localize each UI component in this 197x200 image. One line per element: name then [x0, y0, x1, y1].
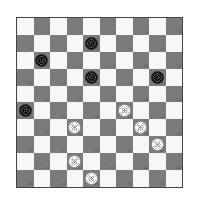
- board-square-dark[interactable]: 24: [133, 86, 150, 103]
- board-square-light: [133, 136, 150, 153]
- board-square-dark[interactable]: 31: [34, 119, 51, 136]
- board-square-dark[interactable]: 2: [67, 18, 84, 35]
- white-piece[interactable]: [85, 172, 98, 185]
- board-square-dark[interactable]: 3: [100, 18, 117, 35]
- board-square-dark[interactable]: 33: [100, 119, 117, 136]
- board-square-light: [166, 69, 183, 86]
- board-square-dark[interactable]: 43: [100, 153, 117, 170]
- board-square-dark[interactable]: 4: [133, 18, 150, 35]
- board-square-light: [67, 102, 84, 119]
- board-square-light: [149, 52, 166, 69]
- board-square-light: [34, 170, 51, 187]
- board-square-dark[interactable]: 28: [83, 102, 100, 119]
- board-square-dark[interactable]: 18: [83, 69, 100, 86]
- board-square-dark[interactable]: 29: [116, 102, 133, 119]
- board-square-dark[interactable]: 26: [17, 102, 34, 119]
- square-number: 49: [127, 183, 131, 187]
- board-square-light: [67, 136, 84, 153]
- board-square-dark[interactable]: 46: [17, 170, 34, 187]
- board-square-dark[interactable]: 42: [67, 153, 84, 170]
- square-number: 46: [28, 183, 32, 187]
- board-square-light: [116, 153, 133, 170]
- board-square-dark[interactable]: 32: [67, 119, 84, 136]
- black-piece[interactable]: [85, 71, 98, 84]
- board-square-light: [67, 35, 84, 52]
- board-square-dark[interactable]: 39: [116, 136, 133, 153]
- board-square-dark[interactable]: 34: [133, 119, 150, 136]
- board-square-dark[interactable]: 13: [100, 52, 117, 69]
- board-square-light: [116, 52, 133, 69]
- board-square-dark[interactable]: 14: [133, 52, 150, 69]
- board-square-dark[interactable]: 6: [17, 35, 34, 52]
- board-square-light: [67, 170, 84, 187]
- board-square-dark[interactable]: 1: [34, 18, 51, 35]
- board-square-light: [133, 69, 150, 86]
- board-square-light: [100, 102, 117, 119]
- board-square-dark[interactable]: 17: [50, 69, 67, 86]
- board-square-dark[interactable]: 16: [17, 69, 34, 86]
- board-square-light: [149, 86, 166, 103]
- board-square-light: [83, 52, 100, 69]
- board-square-dark[interactable]: 45: [166, 153, 183, 170]
- board-square-light: [116, 119, 133, 136]
- board-square-light: [149, 153, 166, 170]
- board-square-light: [83, 119, 100, 136]
- board-square-light: [166, 102, 183, 119]
- board-square-dark[interactable]: 47: [50, 170, 67, 187]
- board-square-dark[interactable]: 30: [149, 102, 166, 119]
- board-square-light: [50, 18, 67, 35]
- board-square-dark[interactable]: 35: [166, 119, 183, 136]
- board-square-light: [50, 153, 67, 170]
- square-number: 47: [61, 183, 65, 187]
- board-square-light: [149, 119, 166, 136]
- board-square-light: [17, 86, 34, 103]
- board-square-light: [133, 102, 150, 119]
- board-square-light: [83, 18, 100, 35]
- board-square-dark[interactable]: 19: [116, 69, 133, 86]
- board-square-dark[interactable]: 8: [83, 35, 100, 52]
- board-square-light: [100, 170, 117, 187]
- board-square-light: [100, 69, 117, 86]
- board-square-dark[interactable]: 41: [34, 153, 51, 170]
- board-square-dark[interactable]: 10: [149, 35, 166, 52]
- board-square-light: [34, 136, 51, 153]
- board-square-dark[interactable]: 50: [149, 170, 166, 187]
- board-square-dark[interactable]: 21: [34, 86, 51, 103]
- square-number: 50: [160, 183, 164, 187]
- black-piece[interactable]: [35, 54, 48, 67]
- board-square-light: [17, 119, 34, 136]
- board-square-dark[interactable]: 23: [100, 86, 117, 103]
- board-square-light: [17, 18, 34, 35]
- board-square-dark[interactable]: 40: [149, 136, 166, 153]
- board-square-dark[interactable]: 37: [50, 136, 67, 153]
- board-square-light: [100, 136, 117, 153]
- board-square-light: [50, 52, 67, 69]
- board-square-dark[interactable]: 11: [34, 52, 51, 69]
- board-square-dark[interactable]: 20: [149, 69, 166, 86]
- board-square-light: [116, 86, 133, 103]
- board-square-dark[interactable]: 49: [116, 170, 133, 187]
- board-square-dark[interactable]: 48: [83, 170, 100, 187]
- board-square-light: [17, 153, 34, 170]
- white-piece[interactable]: [151, 138, 164, 151]
- board-square-light: [34, 102, 51, 119]
- board-square-light: [17, 52, 34, 69]
- board-square-dark[interactable]: 15: [166, 52, 183, 69]
- board-square-light: [100, 35, 117, 52]
- board-square-dark[interactable]: 27: [50, 102, 67, 119]
- board-square-dark[interactable]: 7: [50, 35, 67, 52]
- board-square-dark[interactable]: 5: [166, 18, 183, 35]
- board-square-dark[interactable]: 36: [17, 136, 34, 153]
- board-square-dark[interactable]: 38: [83, 136, 100, 153]
- board-square-dark[interactable]: 44: [133, 153, 150, 170]
- black-piece[interactable]: [151, 71, 164, 84]
- black-piece[interactable]: [85, 37, 98, 50]
- board-square-dark[interactable]: 22: [67, 86, 84, 103]
- board-square-light: [166, 35, 183, 52]
- board-square-light: [67, 69, 84, 86]
- board-square-light: [34, 35, 51, 52]
- board-square-dark[interactable]: 12: [67, 52, 84, 69]
- board-square-dark[interactable]: 9: [116, 35, 133, 52]
- board-square-dark[interactable]: 25: [166, 86, 183, 103]
- board-square-light: [116, 18, 133, 35]
